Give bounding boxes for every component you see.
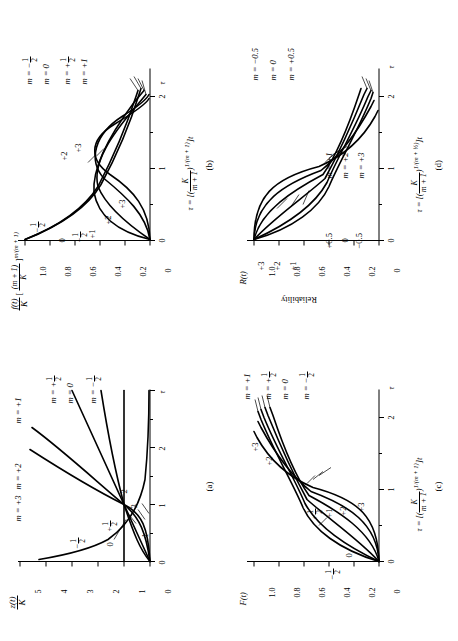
panel-a-callout-poshalf: +12 [102, 520, 118, 531]
panel-d-series-label-m2: m = +2 [341, 152, 350, 178]
panel-d-series-label-mneg05: m = −0.5 [251, 48, 260, 81]
panel-d-callout-0: 0 [341, 238, 350, 242]
panel-b-xtick-tau: τ [159, 81, 167, 84]
panel-b-callout-0: 0 [58, 238, 67, 242]
panel-c-cdf: F(t) 0 0.2 0.4 0.6 0.8 1.0 0 1 2 τ τ = [… [229, 321, 458, 641]
panel-a-ytick-1: 1 [139, 589, 147, 593]
panel-c-ytick-2: 0.4 [344, 587, 352, 597]
panel-a-ytick-0: 0 [165, 589, 173, 593]
panel-c-ytick-0: 0 [394, 589, 402, 593]
panel-d-ylabel: R(t) [239, 271, 248, 284]
panel-b-callout-neghalf: −12 [30, 221, 46, 232]
panel-c-ytick-5: 1.0 [269, 587, 277, 597]
panel-d-svg [247, 62, 397, 258]
panel-a-series-label-m1: m = +1 [14, 397, 23, 423]
panel-d-callout-3: +3 [257, 261, 266, 270]
panel-d-series-label-m0: m = 0 [269, 60, 278, 80]
panel-c-callout-neghalf: −12 [325, 568, 341, 579]
panel-a-series-label-mhalf: m = +12 [46, 375, 62, 403]
panel-b-ytick-4: 0.8 [65, 266, 73, 276]
panel-d-series-label-m3: m = +3 [357, 152, 366, 178]
panel-a-callout-2: 2 [120, 489, 129, 493]
panel-b-ylabel: f(t) K [ (m + 1) K ]m/(m + 1) [10, 232, 29, 310]
panel-c-xtick-0: 0 [388, 559, 396, 563]
panel-d-callout-neg05: −0.5 [355, 233, 364, 248]
panel-d-callout-1: +1 [289, 261, 298, 270]
panel-b-xtick-2: 2 [159, 94, 167, 98]
panel-d-xtick-tau: τ [388, 65, 396, 68]
panel-b-series-label-m1: m = +1 [80, 58, 89, 84]
panel-a-ytick-5: 5 [35, 589, 43, 593]
panel-c-ytick-4: 0.8 [294, 587, 302, 597]
panel-b-ytick-1: 0.2 [140, 266, 148, 276]
panel-a-callout-1: 1 [141, 533, 150, 537]
panel-b-ytick-3: 0.6 [90, 266, 98, 276]
panel-c-xtick-tau: τ [388, 386, 396, 389]
panel-a-series-label-m3: m = +3 [14, 495, 23, 521]
four-panel-figure: z(t) K 0 1 2 3 4 5 0 1 2 τ m = +3 m = +2… [0, 0, 458, 641]
panel-c-label: (c) [434, 481, 443, 491]
panel-c-xtick-1: 1 [388, 487, 396, 491]
panel-b-callout-2: +2 [104, 215, 113, 224]
panel-b-callout-poshalf: +12 [72, 231, 88, 242]
panel-a-plot-area [18, 383, 168, 579]
panel-b-xtick-0: 0 [159, 238, 167, 242]
panel-d-xtick-1: 1 [388, 166, 396, 170]
panel-c-ytick-3: 0.6 [319, 587, 327, 597]
panel-a-ytick-2: 2 [113, 589, 121, 593]
panel-c-ytick-1: 0.2 [369, 587, 377, 597]
panel-b-series-label-mneghalf: m = −12 [22, 56, 38, 84]
panel-a-label: (a) [205, 481, 214, 491]
panel-a-svg [18, 383, 168, 579]
panel-c-callout-3: +3 [251, 442, 260, 451]
panel-d-series-label-m1: m = +1 [325, 152, 334, 178]
panel-d-callout-2: +2 [273, 261, 282, 270]
panel-d-xtick-2: 2 [388, 94, 396, 98]
panel-d-axis-title-reliability: Reliability [281, 294, 317, 304]
panel-d-label: (d) [434, 160, 443, 171]
panel-b-xlabel: τ = [( K m + 1 )1/(m + 1)]t [182, 136, 199, 210]
panel-c-callout-2: +2 [265, 456, 274, 465]
panel-d-series-label-mpos05: m = +0.5 [287, 48, 296, 81]
panel-d-ytick-1: 0.2 [369, 266, 377, 276]
panel-c-callout-3b: +3 [357, 502, 366, 511]
panel-c-ylabel: F(t) [239, 592, 248, 605]
panel-a-xtick-0: 0 [159, 560, 167, 564]
panel-c-series-label-m0: m = 0 [281, 379, 290, 399]
panel-b-label: (b) [205, 160, 214, 171]
panel-a-hazard-rate: z(t) K 0 1 2 3 4 5 0 1 2 τ m = +3 m = +2… [0, 321, 229, 641]
panel-b-callout-2b: +2 [60, 151, 69, 160]
panel-a-ytick-4: 4 [61, 589, 69, 593]
panel-b-ytick-2: 0.4 [115, 266, 123, 276]
panel-d-xtick-0: 0 [388, 238, 396, 242]
figure-page: z(t) K 0 1 2 3 4 5 0 1 2 τ m = +3 m = +2… [0, 0, 458, 641]
panel-c-series-label-m1: m = +1 [243, 373, 252, 399]
panel-a-series-label-m2: m = +2 [14, 463, 23, 489]
panel-a-xlabel-tau: τ [159, 390, 167, 393]
panel-b-callout-1: +1 [88, 229, 97, 238]
panel-a-ylabel: z(t) K [8, 595, 27, 609]
panel-b-callout-3b: +3 [74, 143, 83, 152]
panel-c-svg [247, 383, 397, 579]
panel-b-ytick-0: 0 [165, 268, 173, 272]
panel-a-xtick-1: 1 [159, 503, 167, 507]
panel-d-reliability: Reliability R(t) 0 0.2 0.4 0.6 0.8 1.0 0… [229, 0, 458, 320]
panel-c-series-label-mposhalf: m = +12 [261, 371, 277, 399]
panel-b-pdf: f(t) K [ (m + 1) K ]m/(m + 1) 0 0.2 0.4 … [0, 0, 229, 320]
panel-d-callout-pos05: +0.5 [325, 233, 334, 248]
panel-c-callout-2b: +2 [339, 506, 348, 515]
panel-c-callout-0: 0 [345, 553, 354, 557]
panel-d-ytick-3: 0.6 [319, 266, 327, 276]
panel-d-plot-area [247, 62, 397, 258]
panel-a-ytick-3: 3 [87, 589, 95, 593]
panel-c-xtick-2: 2 [388, 415, 396, 419]
panel-d-ytick-2: 0.4 [344, 266, 352, 276]
panel-c-callout-1: +1 [325, 508, 334, 517]
panel-b-xtick-1: 1 [159, 166, 167, 170]
panel-a-callout-3: 3 [130, 504, 139, 508]
panel-c-xlabel: τ = [( K m + 1 )1/(m + 1)]t [411, 457, 428, 531]
panel-c-series-label-mneghalf: m = −12 [299, 371, 315, 399]
panel-b-series-label-mposhalf: m = +12 [60, 56, 76, 84]
panel-b-series-label-m0: m = 0 [42, 64, 51, 84]
panel-a-callout-neghalf: −12 [70, 537, 86, 548]
